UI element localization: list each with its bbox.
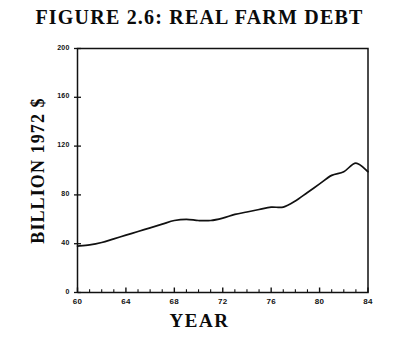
- x-tick-label: 64: [116, 297, 136, 306]
- y-tick-label: 120: [46, 141, 70, 148]
- x-tick-label: 76: [261, 297, 281, 306]
- y-tick-label: 40: [46, 239, 70, 246]
- y-tick-label: 160: [46, 92, 70, 99]
- axis-ticks: [74, 49, 368, 293]
- data-line-real-farm-debt: [78, 163, 369, 246]
- axis-frame: [78, 49, 369, 293]
- x-tick-label: 80: [310, 297, 330, 306]
- plot-area: [0, 0, 399, 350]
- x-tick-label: 60: [68, 297, 88, 306]
- x-tick-label: 84: [358, 297, 378, 306]
- y-tick-label: 0: [46, 288, 70, 295]
- y-tick-label: 80: [46, 190, 70, 197]
- figure-real-farm-debt: FIGURE 2.6: REAL FARM DEBT BILLION 1972 …: [0, 0, 399, 350]
- x-tick-label: 68: [164, 297, 184, 306]
- x-tick-label: 72: [213, 297, 233, 306]
- y-tick-label: 200: [46, 44, 70, 51]
